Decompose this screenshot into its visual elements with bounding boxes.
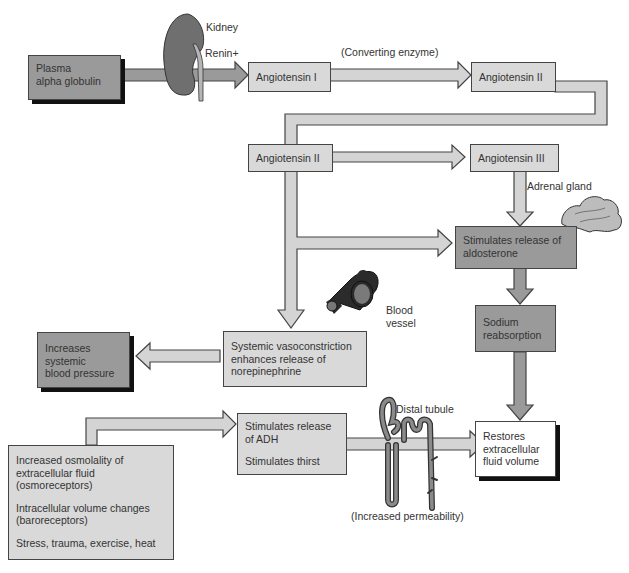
angiotensin-2-mid-label: Angiotensin II	[256, 152, 320, 165]
vasoconstriction-line2: enhances release of	[231, 353, 359, 366]
node-angiotensin-2-top: Angiotensin II	[471, 62, 556, 92]
label-blood-vessel-2: vessel	[386, 317, 416, 329]
arrow-ang2-loop	[285, 81, 607, 145]
stimuli-item1-line2: extracellular fluid	[16, 467, 166, 480]
arrow-ang1-to-ang2	[330, 62, 471, 88]
label-renin: Renin+	[205, 47, 239, 59]
blood-pressure-line3: blood pressure	[45, 367, 122, 380]
label-adrenal-gland: Adrenal gland	[527, 180, 592, 192]
arrow-adh-to-restores	[345, 431, 484, 457]
aldosterone-line2: aldosterone	[463, 247, 569, 260]
node-systemic-vasoconstriction: Systemic vasoconstriction enhances relea…	[223, 331, 367, 387]
arrow-ang2-to-ang3	[332, 145, 465, 169]
sodium-line2: reabsorption	[483, 329, 548, 342]
sodium-line1: Sodium	[483, 316, 548, 329]
arrow-vasoconstriction-to-bp	[136, 343, 220, 369]
node-angiotensin-1: Angiotensin I	[248, 62, 331, 92]
plasma-line2: alpha globulin	[36, 75, 113, 88]
node-plasma-alpha-globulin: Plasma alpha globulin	[28, 55, 121, 100]
restores-line3: fluid volume	[483, 455, 548, 468]
restores-line1: Restores	[483, 430, 548, 443]
node-increases-blood-pressure: Increases systemic blood pressure	[37, 332, 130, 388]
plasma-line1: Plasma	[36, 62, 113, 75]
aldosterone-line1: Stimulates release of	[463, 234, 569, 247]
blood-pressure-line1: Increases	[45, 342, 122, 355]
label-increased-permeability: (Increased permeability)	[351, 510, 464, 522]
stimuli-item1-line3: (osmoreceptors)	[16, 479, 166, 492]
angiotensin-2-top-label: Angiotensin II	[479, 71, 543, 84]
diagram-canvas: Plasma alpha globulin Angiotensin I Angi…	[0, 0, 629, 573]
arrow-stimuli-to-adh	[86, 411, 236, 445]
label-kidney: Kidney	[206, 21, 238, 33]
blood-vessel-icon	[326, 270, 378, 314]
node-angiotensin-3: Angiotensin III	[470, 144, 559, 172]
restores-line2: extracellular	[483, 443, 548, 456]
angiotensin-1-label: Angiotensin I	[256, 71, 317, 84]
stimuli-item2-line1: Intracellular volume changes	[16, 502, 166, 515]
label-distal-tubule: Distal tubule	[396, 403, 454, 415]
kidney-icon	[164, 14, 204, 101]
stimuli-item2-line2: (baroreceptors)	[16, 514, 166, 527]
distal-tubule-icon	[382, 400, 437, 508]
angiotensin-3-label: Angiotensin III	[478, 152, 545, 165]
adh-line3: Stimulates thirst	[245, 455, 339, 468]
blood-pressure-line2: systemic	[45, 355, 122, 368]
label-converting-enzyme: (Converting enzyme)	[341, 46, 438, 58]
adh-line1: Stimulates release	[245, 420, 339, 433]
arrow-sodium-to-restores	[507, 352, 533, 420]
node-angiotensin-2-mid: Angiotensin II	[248, 144, 333, 172]
node-sodium-reabsorption: Sodium reabsorption	[475, 305, 556, 352]
stimuli-item1-line1: Increased osmolality of	[16, 454, 166, 467]
vasoconstriction-line1: Systemic vasoconstriction	[231, 340, 359, 353]
label-blood-vessel-1: Blood	[386, 304, 413, 316]
arrow-aldosterone-to-sodium	[507, 268, 533, 304]
vasoconstriction-line3: norepinephrine	[231, 365, 359, 378]
adh-line2: of ADH	[245, 433, 339, 446]
stimuli-item3-line1: Stress, trauma, exercise, heat	[16, 537, 166, 550]
node-adh-thirst: Stimulates release of ADH Stimulates thi…	[237, 413, 347, 475]
node-restores-fluid-volume: Restores extracellular fluid volume	[475, 421, 556, 477]
node-stimuli: Increased osmolality of extracellular fl…	[8, 445, 174, 560]
node-aldosterone: Stimulates release of aldosterone	[455, 226, 577, 269]
